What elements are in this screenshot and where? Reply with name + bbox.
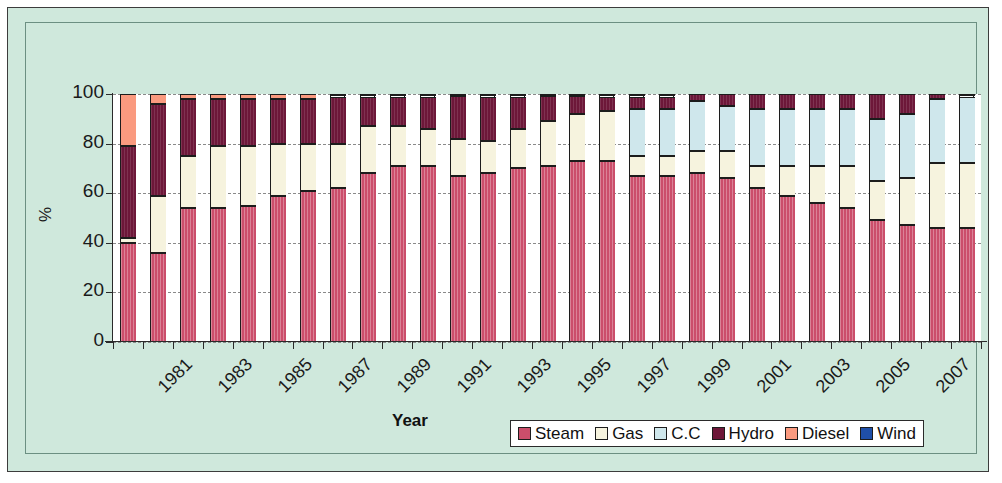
bar-1989[interactable]: [360, 94, 375, 342]
plot-canvas: [113, 94, 981, 342]
legend-item-label: Wind: [877, 424, 916, 444]
legend-item-wind[interactable]: Wind: [860, 424, 916, 444]
bar-1996[interactable]: [569, 94, 584, 342]
legend-item-label: Gas: [612, 424, 643, 444]
bar-2002[interactable]: [749, 94, 764, 342]
plot-area: [113, 94, 981, 342]
y-tick-100: [106, 94, 113, 95]
y-tick-label: 60: [58, 180, 104, 202]
legend-swatch-icon: [712, 427, 725, 440]
bar-segment-hydro: [451, 96, 466, 138]
bar-segment-hydro: [241, 99, 256, 146]
x-tick: [921, 341, 922, 349]
bar-1990[interactable]: [390, 94, 405, 342]
bar-segment-cc: [690, 101, 705, 151]
y-tick-20: [106, 292, 113, 293]
x-tick: [472, 341, 473, 349]
bar-segment-steam: [870, 220, 885, 342]
bar-1981[interactable]: [120, 94, 135, 342]
bar-1992[interactable]: [450, 94, 465, 342]
bar-segment-diesel: [451, 94, 466, 96]
x-tick: [682, 341, 683, 349]
bar-segment-diesel: [391, 94, 406, 96]
bar-2003[interactable]: [779, 94, 794, 342]
bar-segment-diesel: [660, 94, 675, 96]
legend-item-label: C.C: [671, 424, 700, 444]
y-tick-label: 0: [58, 329, 104, 351]
bar-1999[interactable]: [659, 94, 674, 342]
bar-segment-steam: [690, 173, 705, 342]
bar-segment-hydro: [211, 99, 226, 146]
x-tick: [173, 341, 174, 349]
x-tick: [861, 341, 862, 349]
bar-segment-gas: [331, 144, 346, 189]
chart-legend: SteamGasC.CHydroDieselWind: [510, 420, 924, 447]
bar-segment-gas: [481, 141, 496, 173]
bar-segment-steam: [511, 168, 526, 342]
bar-segment-gas: [930, 163, 945, 227]
bar-2000[interactable]: [689, 94, 704, 342]
bar-1998[interactable]: [629, 94, 644, 342]
bar-segment-cc: [900, 114, 915, 178]
legend-swatch-icon: [860, 427, 873, 440]
bar-2007[interactable]: [899, 94, 914, 342]
bar-segment-hydro: [930, 94, 945, 99]
bar-1995[interactable]: [540, 94, 555, 342]
bar-1987[interactable]: [300, 94, 315, 342]
bar-segment-gas: [960, 163, 975, 227]
y-tick-40: [106, 243, 113, 244]
bar-1997[interactable]: [599, 94, 614, 342]
legend-swatch-icon: [654, 427, 667, 440]
bar-segment-steam: [361, 173, 376, 342]
bar-segment-hydro: [720, 94, 735, 106]
bar-segment-diesel: [151, 94, 166, 104]
x-tick: [981, 341, 982, 349]
bar-2008[interactable]: [929, 94, 944, 342]
bar-1993[interactable]: [480, 94, 495, 342]
bar-1985[interactable]: [240, 94, 255, 342]
bar-1984[interactable]: [210, 94, 225, 342]
bar-segment-gas: [391, 126, 406, 166]
legend-item-hydro[interactable]: Hydro: [712, 424, 774, 444]
bar-2005[interactable]: [839, 94, 854, 342]
bar-segment-steam: [271, 196, 286, 342]
bar-1986[interactable]: [270, 94, 285, 342]
bar-segment-steam: [181, 208, 196, 342]
bar-segment-steam: [151, 253, 166, 342]
bar-2004[interactable]: [809, 94, 824, 342]
x-tick: [293, 341, 294, 349]
bar-2001[interactable]: [719, 94, 734, 342]
bar-segment-hydro: [391, 97, 406, 127]
bar-segment-steam: [570, 161, 585, 342]
bar-2006[interactable]: [869, 94, 884, 342]
bar-segment-steam: [481, 173, 496, 342]
legend-item-steam[interactable]: Steam: [518, 424, 584, 444]
bar-1983[interactable]: [180, 94, 195, 342]
bar-segment-gas: [541, 121, 556, 166]
bar-1994[interactable]: [510, 94, 525, 342]
bar-segment-steam: [750, 188, 765, 342]
legend-item-diesel[interactable]: Diesel: [785, 424, 849, 444]
bar-segment-hydro: [960, 94, 975, 96]
bar-1982[interactable]: [150, 94, 165, 342]
x-tick: [831, 341, 832, 349]
bar-1988[interactable]: [330, 94, 345, 342]
legend-item-gas[interactable]: Gas: [595, 424, 643, 444]
bar-1991[interactable]: [420, 94, 435, 342]
x-tick: [382, 341, 383, 349]
bar-segment-cc: [780, 109, 795, 166]
x-tick: [951, 341, 952, 349]
bar-segment-gas: [750, 166, 765, 188]
bar-segment-hydro: [630, 97, 645, 109]
x-tick: [592, 341, 593, 349]
bar-segment-hydro: [840, 94, 855, 109]
legend-item-c-c[interactable]: C.C: [654, 424, 700, 444]
y-axis-tick-labels: 100806040200: [48, 0, 104, 483]
bar-2009[interactable]: [959, 94, 974, 342]
bar-segment-steam: [121, 243, 136, 342]
bar-segment-gas: [181, 156, 196, 208]
bar-segment-hydro: [271, 99, 286, 144]
bar-segment-steam: [630, 176, 645, 342]
x-tick: [562, 341, 563, 349]
bar-segment-hydro: [511, 97, 526, 129]
